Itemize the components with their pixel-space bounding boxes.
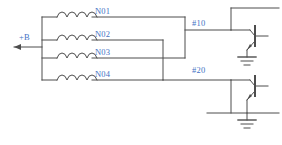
coil-label-n01: N01 (95, 7, 110, 16)
circuit-schematic-svg (0, 0, 282, 145)
transistor-q2 (231, 76, 268, 113)
supply-arrow-group (14, 44, 42, 50)
supply-arrow-head (14, 44, 21, 50)
ground-rail (207, 80, 279, 113)
coil-label-n02: N02 (95, 30, 110, 39)
node-label-20: #20 (192, 66, 205, 75)
coil-branch-n01 (42, 12, 185, 17)
ground-symbol-1 (238, 57, 256, 65)
inductor-symbol-n03 (57, 53, 97, 58)
transistor-q1 (231, 26, 268, 57)
node-label-10: #10 (192, 19, 205, 28)
inductor-symbol-n02 (57, 35, 97, 40)
supply-label: +B (19, 33, 30, 42)
circuit-diagram-canvas: +B N01 N02 N03 N04 #10 #20 (0, 0, 282, 145)
ground-symbol-2 (238, 113, 256, 128)
coil-label-n04: N04 (95, 70, 110, 79)
coil-label-n03: N03 (95, 48, 110, 57)
coil-branch-n03 (42, 53, 185, 58)
inductor-symbol-n01 (57, 12, 97, 17)
inductor-symbol-n04 (57, 75, 97, 80)
